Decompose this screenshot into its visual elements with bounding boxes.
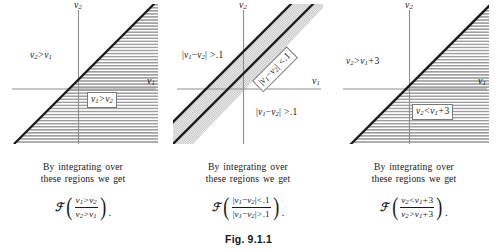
formula-period: . [281, 207, 284, 219]
x-axis-label: v1 [478, 76, 486, 87]
x-axis-label-sub: 1 [152, 79, 155, 86]
formula-stack: |v1−v2|<.1 |v1−v2|>.1 [232, 196, 271, 220]
formula-denominator: v2>v1+3 [400, 208, 434, 219]
lower-right-region-label: |v1−v2| >.1 [256, 108, 297, 118]
caption-line1: By integrating over [331, 161, 497, 173]
formula-numerator: v1>v2 [75, 196, 98, 207]
formula-period: . [445, 207, 448, 219]
figure-caption: Fig. 9.1.1 [0, 233, 497, 245]
formula-right: ℱ ( v2<v1+3 v2>v1+3 ) . [331, 196, 497, 220]
plot-middle: v2 v1 |v1−v2| >.1 |v1−v2| <.1 |v1−v2| >.… [173, 4, 323, 144]
caption-text-middle: By integrating over these regions we get [165, 161, 331, 184]
caption-line2: these regions we get [165, 173, 331, 185]
figure-9-1-1: v2 v1 v2>v1 v1>v2 By integrating over th… [0, 0, 497, 251]
formula-denominator: v2>v1 [75, 208, 98, 219]
formula-numerator: |v1−v2|<.1 [232, 196, 271, 207]
caption-line1: By integrating over [165, 161, 331, 173]
panel-right: v2 v1 v2>v1+3 v2<v1+3 By integrating ove… [331, 0, 497, 251]
formula-left: ℱ ( v1>v2 v2>v1 ) . [0, 196, 166, 220]
upper-region-label: v2>v1 [30, 51, 52, 61]
plot-middle-graphic [173, 4, 323, 144]
y-axis-label: v2 [74, 0, 82, 11]
formula-stack: v2<v1+3 v2>v1+3 [400, 196, 434, 220]
x-axis-label: v1 [312, 76, 320, 87]
formula-period: . [109, 207, 112, 219]
panel-left: v2 v1 v2>v1 v1>v2 By integrating over th… [0, 0, 166, 251]
formula-stack: v1>v2 v2>v1 [75, 196, 98, 220]
caption-text-right: By integrating over these regions we get [331, 161, 497, 184]
formula-denominator: |v1−v2|>.1 [232, 208, 271, 219]
caption-line1: By integrating over [0, 161, 166, 173]
caption-text-left: By integrating over these regions we get [0, 161, 166, 184]
panel-middle: v2 v1 |v1−v2| >.1 |v1−v2| <.1 |v1−v2| >.… [165, 0, 331, 251]
fraktur-f-icon: ℱ [381, 202, 389, 214]
caption-line2: these regions we get [0, 173, 166, 185]
plot-right: v2 v1 v2>v1+3 v2<v1+3 [339, 4, 489, 144]
formula-middle: ℱ ( |v1−v2|<.1 |v1−v2|>.1 ) . [165, 196, 331, 220]
lower-right-region-label: v2<v1+3 [412, 104, 453, 120]
caption-line2: these regions we get [331, 173, 497, 185]
plot-left-graphic [8, 4, 158, 144]
plot-left: v2 v1 v2>v1 v1>v2 [8, 4, 158, 144]
upper-left-region-label: |v1−v2| >.1 [182, 51, 223, 61]
y-axis-label: v2 [239, 0, 247, 11]
plot-right-graphic [339, 4, 489, 144]
formula-numerator: v2<v1+3 [400, 196, 434, 207]
upper-left-region-label: v2>v1+3 [346, 57, 379, 67]
fraktur-f-icon: ℱ [55, 202, 63, 214]
fraktur-f-icon: ℱ [212, 202, 220, 214]
y-axis-label-sub: 2 [79, 3, 82, 10]
x-axis-label: v1 [147, 76, 155, 87]
lower-region-label: v1>v2 [87, 92, 117, 108]
y-axis-label: v2 [405, 0, 413, 11]
